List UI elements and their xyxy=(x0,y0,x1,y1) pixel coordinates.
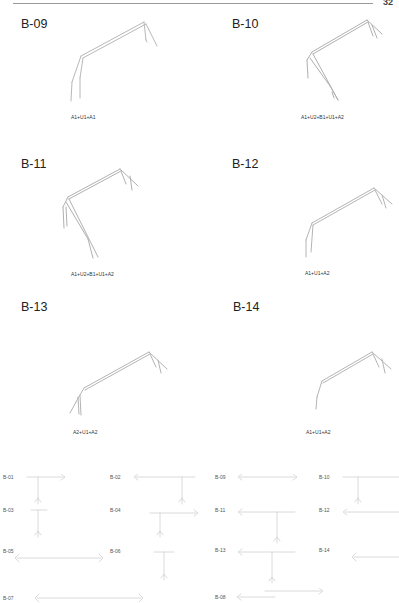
overview-b-03: B-03 xyxy=(3,507,103,541)
figure-b-11: B-11 A1+U2+B1+U1+A2 xyxy=(0,140,200,285)
figure-b-09: B-09 A1+U1+A1 xyxy=(0,0,200,140)
figure-caption: A1+U1+A2 xyxy=(306,429,330,435)
roll-cage-drawing xyxy=(0,140,200,285)
overview-b-04: B-04 xyxy=(110,507,200,541)
overview-b-12: B-12 xyxy=(319,507,399,527)
roll-cage-drawing xyxy=(0,285,200,445)
figure-caption: A1+U1+A1 xyxy=(71,114,95,120)
figure-b-10: B-10 A1+U2+B1+U1+A2 xyxy=(200,0,399,140)
figure-caption: A1+U2+B1+U1+A2 xyxy=(301,114,344,120)
overview-b-10: B-10 xyxy=(319,474,399,508)
overview-b-05: B-05 xyxy=(3,548,103,582)
overview-b-02: B-02 xyxy=(110,474,200,508)
figure-b-12: B-12 A1+U1+A2 xyxy=(200,140,399,285)
overview-b-06: B-06 xyxy=(110,548,200,582)
overview-b-08: B-08 xyxy=(215,588,325,603)
figure-caption: A2+U1+A2 xyxy=(73,429,97,435)
overview-b-09: B-09 xyxy=(215,474,315,494)
figure-caption: A1+U2+B1+U1+A2 xyxy=(71,271,114,277)
overview-b-14: B-14 xyxy=(319,547,399,577)
overview-b-13: B-13 xyxy=(215,547,315,587)
figure-b-14: B-14 A1+U1+A2 xyxy=(200,285,399,445)
overview-b-11: B-11 xyxy=(215,507,315,547)
roll-cage-drawing xyxy=(0,0,200,140)
overview-b-07: B-07 xyxy=(3,592,199,603)
figure-caption: A1+U1+A2 xyxy=(305,270,329,276)
roll-cage-drawing xyxy=(200,0,399,140)
roll-cage-drawing xyxy=(200,285,399,445)
overview-b-01: B-01 xyxy=(3,474,103,508)
figure-b-13: B-13 A2+U1+A2 xyxy=(0,285,200,445)
roll-cage-drawing xyxy=(200,140,399,285)
